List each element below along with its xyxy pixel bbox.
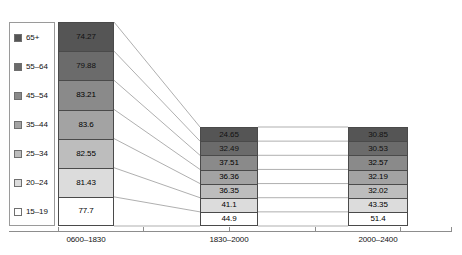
bar-segment[interactable]: 74.27 xyxy=(58,22,114,51)
x-axis-label-1: 0600–1830 xyxy=(66,235,105,244)
x-axis-tick xyxy=(315,227,316,232)
x-axis-tick xyxy=(229,227,230,232)
bar-2000-2400[interactable]: 30.85 30.53 32.57 32.19 32.02 43.35 51.4 xyxy=(348,127,408,226)
legend-label: 55–64 xyxy=(26,62,48,71)
bar-segment[interactable]: 24.65 xyxy=(200,127,258,141)
bar-segment[interactable]: 82.55 xyxy=(58,139,114,168)
x-axis-line xyxy=(9,231,452,232)
segment-value: 74.27 xyxy=(76,33,96,41)
segment-value: 44.9 xyxy=(221,215,236,223)
legend-swatch-15-19 xyxy=(14,208,22,216)
bar-segment[interactable]: 32.57 xyxy=(348,155,408,169)
bar-segment[interactable]: 44.9 xyxy=(200,212,258,226)
segment-value: 24.65 xyxy=(219,131,239,139)
legend-label: 25–34 xyxy=(26,149,48,158)
bar-segment[interactable]: 30.85 xyxy=(348,127,408,141)
legend-label: 15–19 xyxy=(26,207,48,216)
bar-segment[interactable]: 32.19 xyxy=(348,170,408,184)
legend-item[interactable]: 20–24 xyxy=(14,168,48,197)
legend-item[interactable]: 35–44 xyxy=(14,110,48,139)
segment-value: 83.21 xyxy=(76,91,96,99)
bar-segment[interactable]: 30.53 xyxy=(348,141,408,155)
bar-segment[interactable]: 51.4 xyxy=(348,212,408,226)
bar-segment[interactable]: 41.1 xyxy=(200,198,258,212)
bar-segment[interactable]: 32.02 xyxy=(348,184,408,198)
chart-canvas: 65+ 55–64 45–54 35–44 25–34 20–24 15–19 xyxy=(0,0,462,255)
segment-value: 32.19 xyxy=(368,173,388,181)
legend-swatch-25-34 xyxy=(14,150,22,158)
segment-value: 32.49 xyxy=(219,145,239,153)
legend-item[interactable]: 45–54 xyxy=(14,81,48,110)
legend-swatch-45-54 xyxy=(14,92,22,100)
segment-value: 82.55 xyxy=(76,150,96,158)
legend-label: 35–44 xyxy=(26,120,48,129)
segment-value: 43.35 xyxy=(368,201,388,209)
legend-swatch-20-24 xyxy=(14,179,22,187)
legend-swatch-35-44 xyxy=(14,121,22,129)
bar-segment[interactable]: 32.49 xyxy=(200,141,258,155)
legend-label: 65+ xyxy=(26,33,39,42)
legend: 65+ 55–64 45–54 35–44 25–34 20–24 15–19 xyxy=(9,22,55,226)
segment-value: 36.35 xyxy=(219,187,239,195)
x-axis-tick xyxy=(400,227,401,232)
segment-value: 30.85 xyxy=(368,131,388,139)
bar-segment[interactable]: 36.36 xyxy=(200,170,258,184)
legend-swatch-55-64 xyxy=(14,63,22,71)
segment-value: 79.88 xyxy=(76,62,96,70)
legend-item[interactable]: 25–34 xyxy=(14,139,48,168)
segment-value: 41.1 xyxy=(221,201,236,209)
bar-segment[interactable]: 79.88 xyxy=(58,51,114,80)
x-axis-label-2: 1830–2000 xyxy=(209,235,248,244)
x-axis-label-3: 2000–2400 xyxy=(358,235,397,244)
bar-segment[interactable]: 81.43 xyxy=(58,168,114,197)
legend-label: 45–54 xyxy=(26,91,48,100)
bar-segment[interactable]: 43.35 xyxy=(348,198,408,212)
bar-segment[interactable]: 37.51 xyxy=(200,155,258,169)
legend-item[interactable]: 65+ xyxy=(14,23,39,52)
legend-label: 20–24 xyxy=(26,178,48,187)
segment-value: 36.36 xyxy=(219,173,239,181)
bar-segment[interactable]: 83.6 xyxy=(58,110,114,139)
x-axis-tick xyxy=(143,227,144,232)
segment-value: 30.53 xyxy=(368,145,388,153)
legend-item[interactable]: 15–19 xyxy=(14,197,48,226)
segment-value: 32.57 xyxy=(368,159,388,167)
bar-segment[interactable]: 83.21 xyxy=(58,80,114,109)
bar-segment[interactable]: 36.35 xyxy=(200,184,258,198)
x-axis-tick xyxy=(451,227,452,232)
segment-value: 32.02 xyxy=(368,187,388,195)
segment-value: 81.43 xyxy=(76,179,96,187)
bar-1830-2000[interactable]: 24.65 32.49 37.51 36.36 36.35 41.1 44.9 xyxy=(200,127,258,226)
x-axis-tick xyxy=(58,227,59,232)
bar-segment[interactable]: 77.7 xyxy=(58,197,114,226)
segment-value: 37.51 xyxy=(219,159,239,167)
segment-value: 51.4 xyxy=(370,215,385,223)
segment-value: 83.6 xyxy=(78,121,93,129)
bar-0600-1830[interactable]: 74.27 79.88 83.21 83.6 82.55 81.43 77.7 xyxy=(58,22,114,226)
legend-item[interactable]: 55–64 xyxy=(14,52,48,81)
segment-value: 77.7 xyxy=(78,207,93,215)
legend-swatch-65-plus xyxy=(14,34,22,42)
